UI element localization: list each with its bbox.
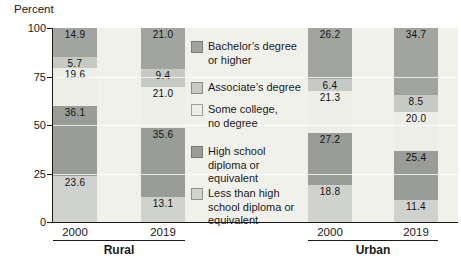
bar-segment: 18.8: [308, 185, 352, 221]
bar-value-label: 6.4: [308, 81, 352, 91]
bar-value-label: 13.1: [141, 199, 185, 209]
bar-segment: 14.9: [53, 28, 97, 57]
y-axis-title: Percent: [14, 3, 54, 15]
gridline-75: [52, 77, 458, 78]
y-tick-label-25: 25: [14, 168, 46, 180]
legend-swatch-icon: [191, 104, 203, 116]
bar-segment: 23.6: [53, 176, 97, 222]
bar-value-label: 11.4: [394, 202, 438, 212]
bar-segment: 20.0: [394, 112, 438, 151]
bar-segment: 21.0: [141, 28, 185, 69]
y-tick-label-100: 100: [14, 22, 46, 34]
bar-segment: 6.4: [308, 79, 352, 91]
y-tick-label-75: 75: [14, 71, 46, 83]
y-axis-line: [52, 28, 53, 223]
bar-segment: 27.2: [308, 133, 352, 186]
y-tick-50: [47, 125, 52, 126]
bar-value-label: 21.0: [141, 89, 185, 99]
year-label: 2019: [394, 226, 438, 238]
bar-segment: 35.6: [141, 128, 185, 197]
legend-swatch-icon: [191, 146, 203, 158]
legend-swatch-icon: [191, 188, 203, 200]
bar-value-label: 35.6: [141, 130, 185, 140]
legend-swatch-icon: [191, 82, 203, 94]
bar-value-label: 8.5: [394, 97, 438, 107]
chart-container: Percent 0255075100 14.95.719.636.123.621…: [0, 0, 461, 268]
legend-label: Less than highschool diploma orequivalen…: [208, 187, 294, 228]
bar-value-label: 34.7: [394, 30, 438, 40]
group-label: Urban: [308, 243, 438, 257]
group-underline: [53, 240, 185, 241]
year-label: 2000: [308, 226, 352, 238]
year-label: 2019: [141, 226, 185, 238]
bar-segment: 11.4: [394, 200, 438, 222]
bar-value-label: 18.8: [308, 187, 352, 197]
bar-value-label: 36.1: [53, 108, 97, 118]
bar-segment: 9.4: [141, 69, 185, 87]
y-tick-75: [47, 77, 52, 78]
bar-value-label: 19.6: [53, 70, 97, 80]
bar-segment: 34.7: [394, 28, 438, 95]
bar-segment: 21.3: [308, 91, 352, 132]
bar-segment: 5.7: [53, 57, 97, 68]
bar-value-label: 21.3: [308, 93, 352, 103]
bar-segment: 21.0: [141, 87, 185, 128]
bar-segment: 8.5: [394, 95, 438, 111]
y-tick-25: [47, 174, 52, 175]
bar-segment: 13.1: [141, 197, 185, 222]
bar-value-label: 26.2: [308, 30, 352, 40]
legend-label: Associate’s degree: [208, 81, 301, 95]
bar-segment: 19.6: [53, 68, 97, 106]
bar-value-label: 14.9: [53, 30, 97, 40]
bar-value-label: 23.6: [53, 178, 97, 188]
bar-value-label: 20.0: [394, 114, 438, 124]
bar-value-label: 5.7: [53, 59, 97, 69]
bar-value-label: 27.2: [308, 135, 352, 145]
group-underline: [308, 240, 438, 241]
group-label: Rural: [53, 243, 185, 257]
year-label: 2000: [53, 226, 97, 238]
bar-segment: 36.1: [53, 106, 97, 176]
y-tick-0: [47, 222, 52, 223]
y-tick-100: [47, 28, 52, 29]
bar-segment: 26.2: [308, 28, 352, 79]
bar-segment: 25.4: [394, 151, 438, 200]
legend-label: High schooldiploma orequivalent: [208, 145, 265, 186]
y-tick-label-50: 50: [14, 119, 46, 131]
y-tick-label-0: 0: [14, 216, 46, 228]
bar-value-label: 25.4: [394, 153, 438, 163]
legend-label: Some college,no degree: [208, 103, 278, 130]
bar-value-label: 21.0: [141, 30, 185, 40]
legend-label: Bachelor’s degreeor higher: [208, 40, 297, 67]
legend-swatch-icon: [191, 41, 203, 53]
